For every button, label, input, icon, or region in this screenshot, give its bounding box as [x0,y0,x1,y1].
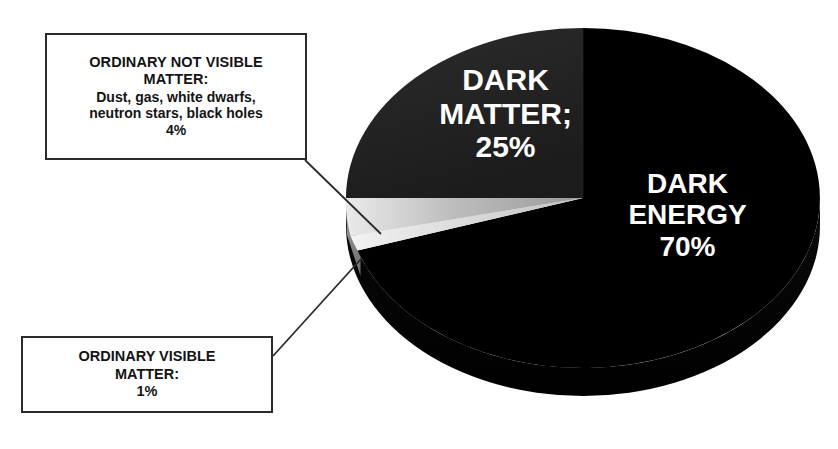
callout-not-visible-line5: 4% [166,122,186,139]
slice-label-dark-matter: DARK MATTER; 25% [413,63,598,164]
slice-label-dark-matter-line2: MATTER; [439,97,572,130]
slice-label-dark-energy-line2: ENERGY [628,199,746,230]
slice-label-dark-matter-line1: DARK [462,63,549,96]
callout-box-visible-matter: ORDINARY VISIBLE MATTER: 1% [21,336,273,413]
leader-line-not-visible-matter [305,160,381,234]
callout-not-visible-line3: Dust, gas, white dwarfs, [96,89,255,106]
callout-box-not-visible-matter: ORDINARY NOT VISIBLE MATTER: Dust, gas, … [45,33,307,160]
callout-not-visible-line2: MATTER: [144,71,209,88]
callout-visible-line3: 1% [137,383,158,400]
pie-chart-figure: DARK MATTER; 25% DARK ENERGY 70% ORDINAR… [0,0,838,449]
callout-not-visible-line1: ORDINARY NOT VISIBLE [89,54,263,71]
slice-label-dark-energy-line3: 70% [659,231,715,262]
leader-line-visible-matter [273,259,361,356]
callout-visible-line1: ORDINARY VISIBLE [79,348,216,365]
callout-not-visible-line4: neutron stars, black holes [89,105,263,122]
slice-label-dark-energy-line1: DARK [647,168,728,199]
slice-label-dark-energy: DARK ENERGY 70% [600,168,775,262]
callout-visible-line2: MATTER: [115,366,179,383]
slice-label-dark-matter-line3: 25% [475,130,535,163]
